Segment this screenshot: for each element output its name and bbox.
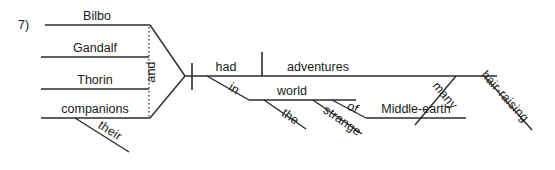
object-label-world: world bbox=[276, 84, 307, 98]
modifier-label-hair-raising: hair-raising bbox=[478, 68, 531, 125]
verb-label-had: had bbox=[216, 60, 237, 74]
subject-label-gandalf: Gandalf bbox=[73, 41, 117, 55]
conjunction-label-and: and bbox=[144, 61, 158, 82]
object-label-middle-earth: Middle-earth bbox=[381, 102, 451, 116]
subject-label-thorin: Thorin bbox=[77, 73, 112, 87]
subject-label-companions: companions bbox=[61, 102, 128, 116]
subject-label-bilbo: Bilbo bbox=[83, 9, 111, 23]
object-label-adventures: adventures bbox=[287, 60, 349, 74]
sentence-diagram-container: 7) Bilbo Gandalf Thorin bbox=[0, 0, 555, 170]
exercise-number: 7) bbox=[18, 18, 29, 32]
sentence-diagram-canvas: 7) Bilbo Gandalf Thorin bbox=[0, 0, 555, 170]
